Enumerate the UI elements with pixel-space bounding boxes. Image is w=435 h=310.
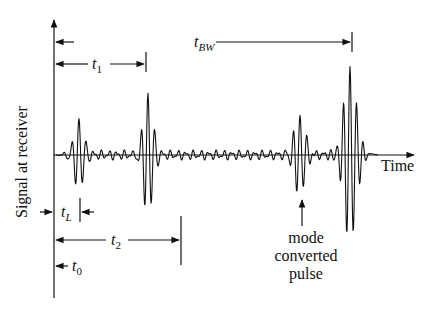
signal-diagram: Signal at receiver Time tBW t1 tL t2 [0, 0, 435, 310]
t2-label: t2 [111, 231, 121, 251]
t0-label: t0 [72, 257, 82, 277]
t-bw-label: tBW [194, 33, 215, 53]
y-axis-label: Signal at receiver [13, 105, 31, 218]
tl-label: tL [61, 203, 72, 223]
callout-line-2: converted [274, 247, 337, 264]
mode-converted-callout: mode converted pulse [274, 200, 337, 283]
x-axis-label: Time [381, 157, 414, 174]
callout-line-1: mode [288, 229, 324, 246]
t1-label: t1 [92, 55, 102, 75]
callout-line-3: pulse [289, 265, 323, 283]
signal-waveform [56, 67, 378, 232]
t0-dimension: t0 [56, 257, 82, 277]
tl-dimension: tL [40, 198, 94, 223]
t-bw-dimension: tBW [56, 32, 352, 53]
t1-dimension: t1 [56, 52, 146, 75]
